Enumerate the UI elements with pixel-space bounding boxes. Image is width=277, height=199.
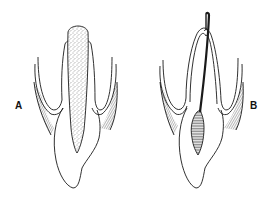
stippled-core-a xyxy=(68,26,88,153)
panel-label-b: B xyxy=(250,100,257,111)
illustration-svg xyxy=(0,0,277,199)
panel-a xyxy=(34,26,117,188)
panel-label-a: A xyxy=(15,100,22,111)
figure: A B xyxy=(0,0,277,199)
hatched-core-b xyxy=(191,110,204,155)
panel-b xyxy=(160,13,243,188)
